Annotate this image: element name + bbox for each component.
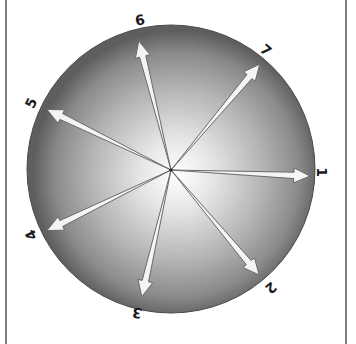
diagram-frame: 1234567 — [0, 0, 356, 344]
vector-label-1: 1 — [314, 167, 330, 177]
vector-label-4: 4 — [22, 227, 41, 243]
vector-label-5: 5 — [22, 95, 41, 111]
center-point — [169, 168, 172, 171]
vector-diagram: 1234567 — [0, 0, 356, 344]
vector-label-6: 6 — [134, 11, 146, 28]
vector-label-2: 2 — [262, 279, 280, 298]
